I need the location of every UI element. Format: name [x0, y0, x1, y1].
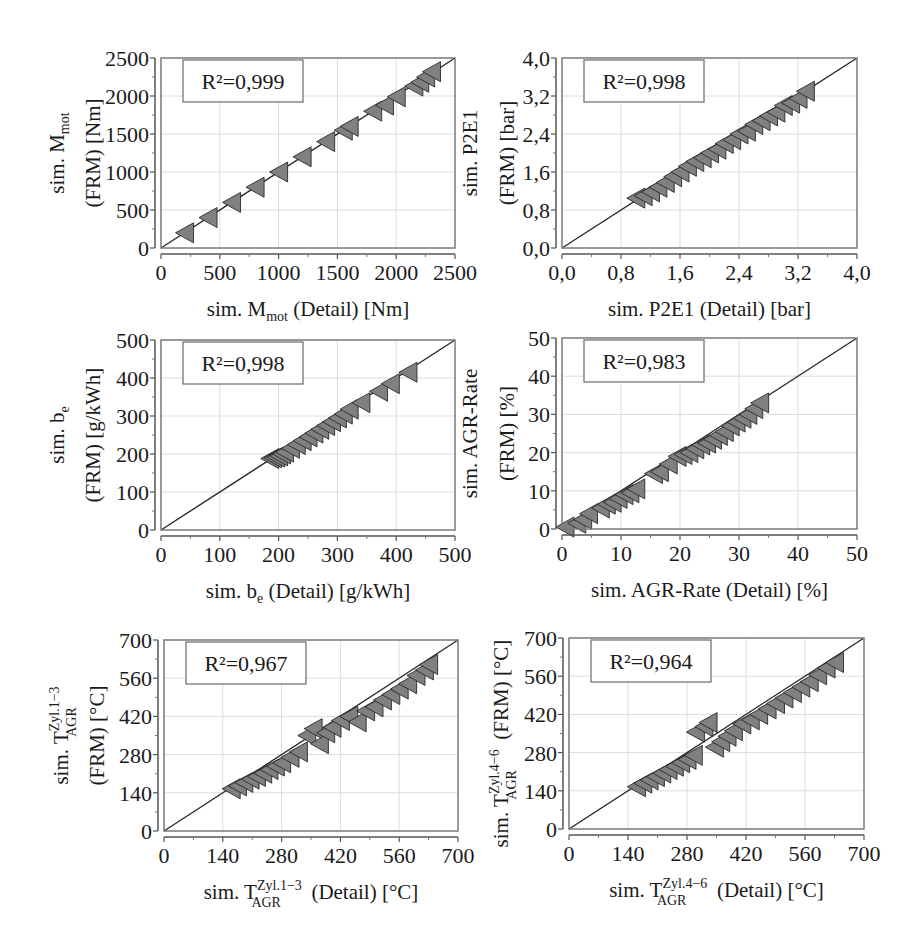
x-tick-label: 0 — [159, 843, 170, 868]
y-tick-label: 280 — [524, 741, 557, 766]
r-squared-value: R²=0,998 — [201, 351, 284, 376]
x-tick-label: 560 — [789, 841, 822, 866]
y-tick-label: 500 — [116, 328, 149, 353]
y-tick-label: 0 — [546, 817, 557, 842]
y-tick-label: 2,4 — [523, 122, 551, 147]
y-axis-title-line1-subscript: mot — [57, 112, 72, 134]
x-tick-label: 140 — [206, 843, 239, 868]
y-axis-title-line1: sim. AGR-Rate — [458, 369, 482, 499]
y-tick-label: 0 — [138, 518, 149, 543]
y-axis-title-line1: sim. P2E1 — [458, 110, 482, 196]
y-tick-label: 700 — [524, 626, 557, 651]
y-tick-label: 700 — [119, 628, 152, 653]
x-tick-label: 50 — [846, 541, 868, 566]
x-tick-label: 2000 — [374, 260, 418, 285]
x-tick-label: 420 — [324, 843, 357, 868]
x-tick-label: 1500 — [315, 260, 359, 285]
x-axis-title: sim. be (Detail) [g/kWh] — [206, 579, 411, 606]
y-axis-title-text: sim. T — [489, 794, 513, 847]
y-axis-title-line1: sim. be — [45, 406, 72, 464]
y-axis-title-line2: (FRM) [Nm] — [81, 98, 105, 207]
y-tick-label: 140 — [119, 781, 152, 806]
scatter-panel-agr: 0010102020303040405050R²=0,983sim. AGR-R… — [458, 326, 868, 602]
y-axis-title-line1-subscript: e — [57, 406, 72, 412]
x-axis-title: sim. AGR-Rate (Detail) [%] — [591, 578, 828, 602]
x-tick-label: 3,2 — [784, 260, 812, 285]
x-tick-label: 500 — [203, 260, 236, 285]
y-axis-title-line1-subscript: AGR — [64, 707, 79, 737]
y-axis-title-line1: sim. Mmot — [45, 112, 72, 193]
x-tick-label: 700 — [848, 841, 881, 866]
y-axis-title-line1: sim. TZyl.1−3AGR — [47, 686, 79, 784]
y-tick-label: 10 — [528, 479, 550, 504]
x-tick-label: 500 — [439, 542, 472, 567]
y-axis-title-superscript: Zyl.4−6 — [487, 749, 502, 794]
y-tick-label: 30 — [528, 402, 550, 427]
x-tick-label: 420 — [730, 841, 763, 866]
y-axis-title-suffix: (FRM) [°C] — [489, 640, 513, 745]
x-tick-label: 40 — [787, 541, 809, 566]
y-axis-title-line1-text: sim. T — [49, 731, 73, 784]
x-axis-title-subscript: AGR — [657, 893, 687, 908]
x-tick-label: 100 — [203, 542, 236, 567]
x-tick-label: 20 — [669, 541, 691, 566]
x-tick-label: 400 — [380, 542, 413, 567]
y-tick-label: 0 — [141, 819, 152, 844]
y-tick-label: 560 — [524, 664, 557, 689]
x-tick-label: 700 — [442, 843, 475, 868]
x-axis-title-text: sim. T — [609, 878, 662, 902]
scatter-panel-tagr46: 00140140280280420420560560700700R²=0,964… — [487, 626, 881, 908]
x-axis-title-text: sim. b — [206, 579, 257, 603]
x-axis-title-suffix: (Detail) [%] — [721, 578, 828, 602]
x-axis-title-text: sim. AGR-Rate — [591, 578, 721, 602]
x-axis-title-suffix: (Detail) [g/kWh] — [263, 579, 410, 603]
x-tick-label: 2500 — [433, 260, 477, 285]
scatter-panel-mmot: 0050050010001000150015002000200025002500… — [45, 46, 477, 324]
y-tick-label: 1000 — [105, 160, 149, 185]
y-tick-label: 1,6 — [523, 160, 551, 185]
x-axis-title-text: sim. M — [207, 297, 267, 321]
y-tick-label: 100 — [116, 480, 149, 505]
y-tick-label: 500 — [116, 198, 149, 223]
y-axis-title-line2: (FRM) [%] — [495, 386, 519, 481]
y-axis-title-line2: (FRM) [g/kWh] — [81, 368, 105, 503]
x-axis-title-superscript: Zyl.1−3 — [257, 878, 302, 893]
x-tick-label: 200 — [262, 542, 295, 567]
y-axis-title: sim. TZyl.4−6AGR (FRM) [°C] — [487, 640, 519, 848]
y-tick-label: 0 — [539, 517, 550, 542]
y-axis-title-subscript: AGR — [504, 769, 519, 799]
y-tick-label: 400 — [116, 366, 149, 391]
x-axis-title: sim. TZyl.1−3AGR (Detail) [°C] — [204, 878, 419, 910]
x-tick-label: 0,8 — [607, 260, 635, 285]
x-tick-label: 4,0 — [843, 260, 871, 285]
y-tick-label: 20 — [528, 441, 550, 466]
y-tick-label: 300 — [116, 404, 149, 429]
x-tick-label: 30 — [728, 541, 750, 566]
r-squared-annotation: R²=0,983 — [584, 340, 704, 382]
y-tick-label: 50 — [528, 326, 550, 351]
x-axis-title: sim. P2E1 (Detail) [bar] — [608, 297, 811, 321]
y-tick-label: 4,0 — [523, 46, 551, 71]
x-axis-title-suffix: (Detail) [°C] — [712, 878, 824, 902]
y-axis-title-line1-text: sim. P2E1 — [458, 110, 482, 196]
x-axis-title: sim. TZyl.4−6AGR (Detail) [°C] — [609, 876, 824, 908]
y-axis-title-line1-superscript: Zyl.1−3 — [47, 686, 62, 731]
y-tick-label: 0,0 — [523, 236, 551, 261]
r-squared-value: R²=0,983 — [602, 349, 685, 374]
r-squared-annotation: R²=0,964 — [591, 640, 711, 682]
r-squared-annotation: R²=0,998 — [183, 342, 303, 384]
x-axis-title: sim. Mmot (Detail) [Nm] — [207, 297, 410, 324]
x-tick-label: 1,6 — [666, 260, 694, 285]
x-tick-label: 140 — [612, 841, 645, 866]
r-squared-annotation: R²=0,998 — [584, 60, 704, 102]
y-tick-label: 0 — [138, 236, 149, 261]
x-axis-title-suffix: (Detail) [bar] — [694, 297, 811, 321]
y-tick-label: 200 — [116, 442, 149, 467]
y-tick-label: 420 — [119, 704, 152, 729]
r-squared-annotation: R²=0,999 — [183, 60, 303, 102]
x-axis-title-text: sim. T — [204, 880, 257, 904]
x-tick-label: 1000 — [257, 260, 301, 285]
y-axis-title-line1-text: sim. b — [45, 412, 69, 463]
y-axis-title-line1-text: sim. M — [45, 134, 69, 194]
x-tick-label: 280 — [265, 843, 298, 868]
